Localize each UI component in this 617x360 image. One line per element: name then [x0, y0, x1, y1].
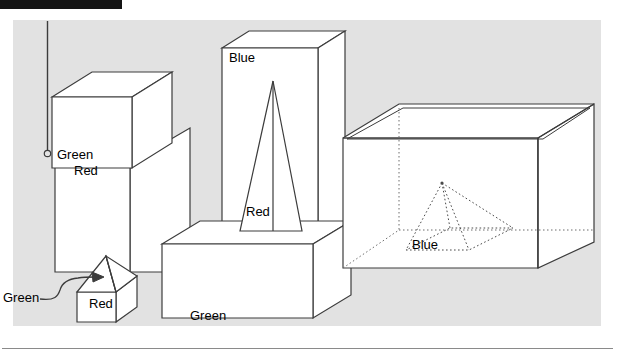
plumb-endpoint-circle [44, 150, 50, 156]
open-container-box [343, 104, 594, 268]
green-long-box [162, 221, 351, 318]
label-green-long-box: Green [190, 308, 226, 323]
label-green-small-pyramid: Green [3, 290, 39, 305]
label-blue-hidden-pyramid: Blue [412, 237, 438, 252]
label-red-small-cube: Red [89, 296, 113, 311]
header-bar [0, 0, 122, 9]
label-blue-tall-box: Blue [229, 50, 255, 65]
figure-container: Green Red Blue Red Green Red Green Blue [0, 0, 617, 360]
label-red-tall-box: Red [74, 163, 98, 178]
label-red-tall-pyramid: Red [246, 204, 270, 219]
label-green-cube: Green [57, 147, 93, 162]
scene-illustration: Green Red Blue Red Green Red Green Blue [0, 0, 617, 360]
